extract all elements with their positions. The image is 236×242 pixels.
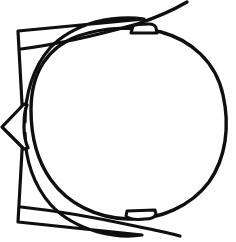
drawing-canvas bbox=[0, 0, 236, 242]
lower-tab bbox=[126, 210, 156, 219]
line-drawing-figure bbox=[0, 0, 236, 242]
upper-tab bbox=[131, 24, 157, 33]
oval-body bbox=[31, 28, 226, 219]
